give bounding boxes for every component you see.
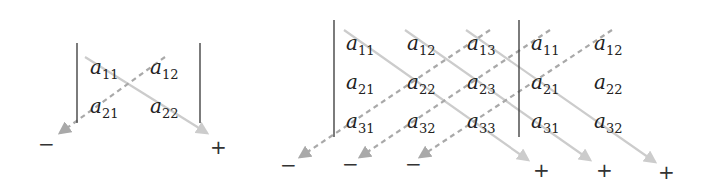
minus-sign: −	[38, 132, 55, 156]
matrix-entry: a32	[407, 109, 435, 136]
matrix-entry-subscript: 11	[543, 43, 560, 58]
matrix-entry: a22	[594, 70, 622, 97]
matrix-entry: a21	[90, 94, 118, 121]
matrix-entry-subscript: 12	[419, 43, 436, 58]
determinant-diagram-canvas: a11a12a21a22−+ a11a12a13a11a12a21a22a23a…	[0, 0, 710, 191]
matrix-entry-subscript: 12	[162, 67, 179, 82]
matrix-entry-subscript: 21	[358, 82, 375, 97]
matrix-entry: a23	[467, 70, 495, 97]
minus-sign: −	[342, 152, 359, 176]
matrix-entry-subscript: 12	[606, 43, 623, 58]
matrix-entry: a31	[531, 109, 559, 136]
matrix-entry: a32	[594, 109, 622, 136]
matrix-entry-subscript: 31	[543, 121, 560, 136]
plus-sign: +	[596, 158, 613, 182]
matrix-entry: a22	[407, 70, 435, 97]
matrix-entry-subscript: 23	[479, 82, 496, 97]
plus-sign: +	[533, 158, 550, 182]
minus-sign: −	[405, 152, 422, 176]
matrix-entry-subscript: 21	[102, 106, 119, 121]
matrix-entry: a22	[150, 94, 178, 121]
matrix-entry: a12	[150, 55, 178, 82]
matrix-entry-subscript: 22	[606, 82, 623, 97]
diagram-3x3: a11a12a13a11a12a21a22a23a21a22a31a32a33a…	[280, 20, 675, 184]
matrix-entry-subscript: 11	[102, 67, 119, 82]
matrix-entry-subscript: 32	[419, 121, 436, 136]
matrix-entry: a12	[407, 31, 435, 58]
matrix-entry: a11	[531, 31, 559, 58]
matrix-entry: a11	[90, 55, 118, 82]
matrix-entry-subscript: 33	[479, 121, 496, 136]
matrix-entry-subscript: 32	[606, 121, 623, 136]
matrix-entry-subscript: 21	[543, 82, 560, 97]
matrix-entry-subscript: 31	[358, 121, 375, 136]
plus-sign: +	[210, 135, 227, 159]
matrix-entry-subscript: 22	[419, 82, 436, 97]
negative-diagonal-arrow-icon	[420, 30, 612, 157]
matrix-entry: a31	[346, 109, 374, 136]
matrix-entry: a21	[531, 70, 559, 97]
matrix-entry: a11	[346, 31, 374, 58]
matrix-entry-subscript: 22	[162, 106, 179, 121]
negative-diagonal-arrow-icon	[360, 30, 550, 157]
matrix-entry-subscript: 11	[358, 43, 375, 58]
plus-sign: +	[658, 160, 675, 184]
diagram-2x2: a11a12a21a22−+	[38, 43, 227, 159]
minus-sign: −	[280, 153, 297, 177]
matrix-entry: a12	[594, 31, 622, 58]
matrix-entry: a33	[467, 109, 495, 136]
negative-diagonal-arrow-icon	[300, 30, 490, 157]
matrix-entry: a21	[346, 70, 374, 97]
matrix-entry-subscript: 13	[479, 43, 496, 58]
